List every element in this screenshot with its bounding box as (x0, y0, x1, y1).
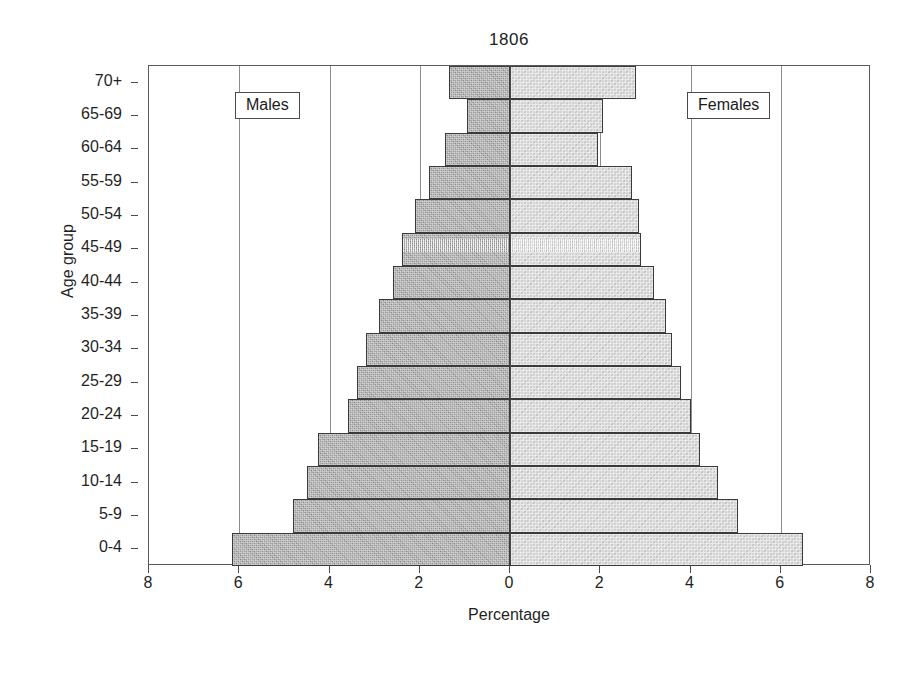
bar-male-20-24 (348, 399, 510, 432)
bar-male-25-29 (357, 366, 510, 399)
bar-male-65-69 (467, 99, 510, 132)
y-tick-label-5-9: 5-9 (99, 505, 122, 523)
y-tick-mark (131, 248, 138, 249)
x-tick-mark (238, 565, 239, 573)
bar-row (149, 299, 869, 332)
bar-female-70+ (510, 66, 636, 99)
y-tick-mark (131, 148, 138, 149)
y-tick-mark (131, 448, 138, 449)
bar-female-30-34 (510, 333, 672, 366)
chart-title: 1806 (148, 30, 870, 50)
y-tick-label-0-4: 0-4 (99, 538, 122, 556)
bar-female-45-49 (510, 233, 641, 266)
x-tick-mark (419, 565, 420, 573)
x-tick-label-8-0: 8 (128, 574, 168, 592)
bar-female-60-64 (510, 133, 598, 166)
bar-female-10-14 (510, 466, 718, 499)
population-pyramid-figure: 1806 70+65-6960-6455-5950-5445-4940-4435… (0, 0, 917, 677)
y-tick-mark (131, 82, 138, 83)
y-tick-mark (131, 415, 138, 416)
plot-area: Males Females (148, 65, 870, 565)
bar-female-65-69 (510, 99, 603, 132)
bar-male-70+ (449, 66, 510, 99)
x-tick-label-6-7: 6 (760, 574, 800, 592)
bar-female-20-24 (510, 399, 691, 432)
y-tick-label-40-44: 40-44 (81, 272, 122, 290)
y-tick-label-70+: 70+ (95, 72, 122, 90)
x-axis-tick-labels: 864202468 (148, 574, 870, 598)
legend-label-males: Males (235, 92, 300, 119)
x-tick-label-2-5: 2 (579, 574, 619, 592)
bar-row (149, 166, 869, 199)
x-tick-label-2-3: 2 (399, 574, 439, 592)
x-tick-label-0-4: 0 (489, 574, 529, 592)
y-tick-mark (131, 215, 138, 216)
y-tick-label-25-29: 25-29 (81, 372, 122, 390)
x-tick-label-8-8: 8 (850, 574, 890, 592)
bar-row (149, 266, 869, 299)
bar-male-30-34 (366, 333, 510, 366)
y-tick-label-30-34: 30-34 (81, 338, 122, 356)
y-tick-label-50-54: 50-54 (81, 205, 122, 223)
bar-female-55-59 (510, 166, 632, 199)
bar-male-60-64 (445, 133, 510, 166)
x-tick-mark (870, 565, 871, 573)
y-tick-mark (131, 382, 138, 383)
y-tick-label-45-49: 45-49 (81, 238, 122, 256)
bar-female-5-9 (510, 499, 738, 532)
bar-female-15-19 (510, 433, 700, 466)
bar-male-35-39 (379, 299, 510, 332)
bar-row (149, 366, 869, 399)
bar-row (149, 466, 869, 499)
bar-row (149, 499, 869, 532)
bar-row (149, 399, 869, 432)
bar-male-40-44 (393, 266, 510, 299)
bar-row (149, 233, 869, 266)
x-tick-mark (148, 565, 149, 573)
x-tick-mark (690, 565, 691, 573)
y-tick-mark (131, 515, 138, 516)
bar-female-35-39 (510, 299, 666, 332)
y-tick-label-55-59: 55-59 (81, 172, 122, 190)
bar-male-5-9 (293, 499, 510, 532)
x-tick-mark (329, 565, 330, 573)
x-tick-label-6-1: 6 (218, 574, 258, 592)
bar-male-50-54 (415, 199, 510, 232)
zero-axis-line (510, 66, 511, 564)
bar-female-0-4 (510, 533, 803, 566)
y-tick-label-35-39: 35-39 (81, 305, 122, 323)
x-axis-title: Percentage (148, 606, 870, 624)
bar-male-0-4 (232, 533, 510, 566)
bar-male-10-14 (307, 466, 510, 499)
y-tick-label-65-69: 65-69 (81, 105, 122, 123)
bar-male-15-19 (318, 433, 510, 466)
bar-female-25-29 (510, 366, 681, 399)
y-tick-label-10-14: 10-14 (81, 472, 122, 490)
bar-female-40-44 (510, 266, 654, 299)
bar-row (149, 333, 869, 366)
x-tick-label-4-6: 4 (670, 574, 710, 592)
y-axis-title: Age group (59, 181, 77, 341)
legend-label-females: Females (687, 92, 770, 119)
x-tick-label-4-2: 4 (309, 574, 349, 592)
x-tick-mark (509, 565, 510, 573)
y-tick-label-20-24: 20-24 (81, 405, 122, 423)
y-tick-mark (131, 548, 138, 549)
y-tick-mark (131, 182, 138, 183)
y-tick-mark (131, 115, 138, 116)
y-tick-mark (131, 315, 138, 316)
y-tick-mark (131, 348, 138, 349)
bar-row (149, 199, 869, 232)
bar-female-50-54 (510, 199, 639, 232)
bar-row (149, 533, 869, 566)
y-tick-label-15-19: 15-19 (81, 438, 122, 456)
bar-male-55-59 (429, 166, 510, 199)
y-tick-mark (131, 282, 138, 283)
bar-male-45-49 (402, 233, 510, 266)
bar-row (149, 133, 869, 166)
y-tick-label-60-64: 60-64 (81, 138, 122, 156)
y-tick-mark (131, 482, 138, 483)
x-tick-mark (599, 565, 600, 573)
bar-row (149, 433, 869, 466)
x-tick-mark (780, 565, 781, 573)
